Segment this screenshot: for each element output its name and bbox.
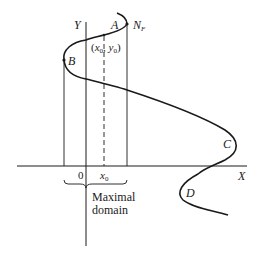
initial-point-label: (x0, y0) bbox=[91, 41, 121, 55]
point-x0y0-dot bbox=[103, 34, 105, 36]
y-axis-label: Y bbox=[74, 18, 82, 32]
x0-label: x0 bbox=[99, 169, 109, 183]
maximal-domain-diagram: Y X 0 A NF B C D (x0, y0) x0 Maximal dom… bbox=[0, 0, 258, 256]
point-a-label: A bbox=[110, 18, 119, 32]
point-nf-label: NF bbox=[132, 18, 146, 33]
point-c-label: C bbox=[223, 137, 232, 151]
point-nf-dot bbox=[125, 22, 128, 25]
domain-brace bbox=[64, 180, 127, 188]
domain-label-line2: domain bbox=[92, 203, 128, 217]
point-b-label: B bbox=[68, 54, 76, 68]
domain-label-line1: Maximal bbox=[92, 190, 136, 204]
point-d-label: D bbox=[185, 186, 195, 200]
origin-label: 0 bbox=[78, 169, 84, 181]
point-b-dot bbox=[62, 58, 65, 61]
solution-curve bbox=[64, 13, 237, 215]
x-axis-label: X bbox=[237, 169, 246, 183]
